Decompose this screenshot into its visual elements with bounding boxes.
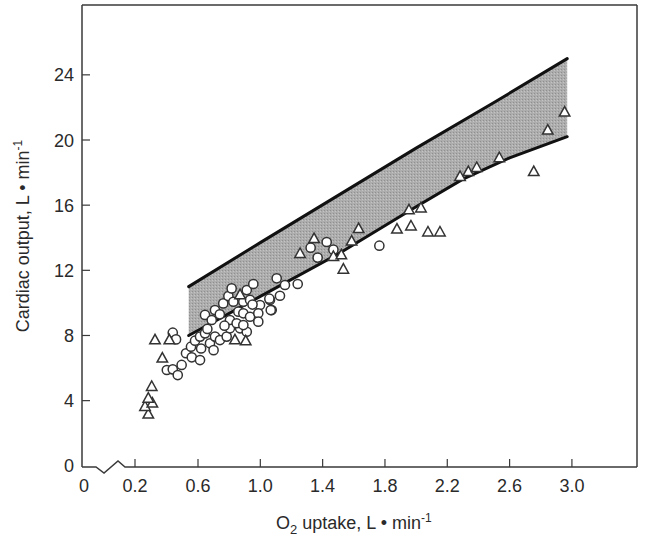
y-tick-label: 24: [54, 65, 74, 85]
x-tick-label: 0: [79, 476, 89, 496]
y-tick-label: 4: [64, 391, 74, 411]
x-tick-label: 1.0: [248, 476, 273, 496]
x-axis-title: O2 uptake, L • min-1: [276, 511, 432, 537]
triangle-data-point: [435, 227, 446, 237]
circle-data-point: [254, 317, 263, 326]
y-axis-ticks: 04812162024: [54, 65, 90, 476]
cardiac-output-chart: 04812162024 00.20.61.01.41.82.22.63.0 Ca…: [0, 0, 651, 550]
triangle-data-point: [146, 381, 157, 391]
circle-data-point: [195, 355, 204, 364]
circle-data-point: [322, 237, 331, 246]
circle-data-point: [197, 344, 206, 353]
y-tick-label: 16: [54, 196, 74, 216]
y-tick-label: 8: [64, 326, 74, 346]
circle-data-point: [209, 346, 218, 355]
circle-data-point: [203, 324, 212, 333]
circle-data-point: [173, 370, 182, 379]
circle-data-point: [306, 243, 315, 252]
triangle-data-point: [338, 264, 349, 274]
circle-data-point: [375, 241, 384, 250]
x-tick-label: 2.2: [435, 476, 460, 496]
y-tick-label: 20: [54, 131, 74, 151]
circle-data-point: [248, 300, 257, 309]
x-tick-label: 1.8: [372, 476, 397, 496]
triangle-data-point: [392, 224, 403, 234]
x-tick-label: 1.4: [310, 476, 335, 496]
reference-band-upper-line: [189, 59, 568, 287]
circle-data-point: [275, 291, 284, 300]
circle-data-point: [249, 279, 258, 288]
circle-data-point: [177, 360, 186, 369]
circle-data-point: [280, 280, 289, 289]
circle-data-point: [293, 279, 302, 288]
y-tick-label: 12: [54, 261, 74, 281]
x-tick-label: 3.0: [559, 476, 584, 496]
y-tick-label: 0: [64, 456, 74, 476]
x-axis-with-break: [82, 461, 637, 473]
x-tick-label: 0.6: [185, 476, 210, 496]
triangle-data-point: [240, 335, 251, 345]
circle-data-point: [239, 320, 248, 329]
circle-data-point: [207, 315, 216, 324]
triangle-data-point: [150, 334, 161, 344]
circle-data-point: [266, 305, 275, 314]
x-tick-label: 2.6: [497, 476, 522, 496]
circle-data-point: [220, 321, 229, 330]
y-axis-title: Cardiac output, L • min-1: [11, 139, 33, 332]
circle-data-point: [272, 274, 281, 283]
triangle-data-point: [406, 220, 417, 230]
circle-data-point: [313, 253, 322, 262]
triangle-data-point: [528, 166, 539, 176]
triangle-data-point: [423, 227, 434, 237]
circle-data-point: [215, 310, 224, 319]
x-axis-ticks: 00.20.61.01.41.82.22.63.0: [79, 459, 584, 496]
circle-data-point: [227, 284, 236, 293]
triangle-data-point: [157, 353, 168, 363]
circle-data-point: [265, 294, 274, 303]
x-tick-label: 0.2: [122, 476, 147, 496]
